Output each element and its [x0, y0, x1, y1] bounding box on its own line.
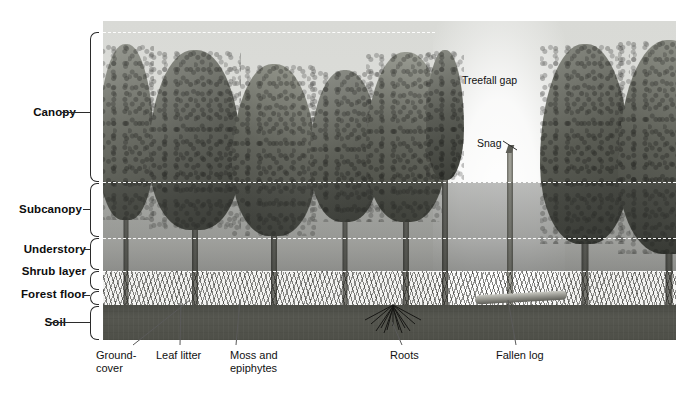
callout-line-1: Moss and: [230, 349, 278, 362]
layer-leader-understory: [84, 249, 90, 250]
callout-leaf-litter: Leaf litter: [156, 349, 201, 362]
shrub-layer-band: [103, 271, 676, 291]
layer-bracket-shrub: [90, 271, 99, 290]
layer-bracket-soil: [90, 306, 99, 340]
layer-label-shrub: Shrub layer: [10, 265, 86, 277]
dashed-rule-subcanopy-top: [103, 182, 676, 183]
layer-bracket-forest-floor: [90, 291, 99, 305]
callout-line-1: Roots: [390, 349, 419, 362]
snag-leader-line: [503, 139, 529, 155]
annotation-treefall-gap: Treefall gap: [462, 74, 517, 86]
layer-bracket-canopy: [90, 32, 99, 182]
forest-floor-band: [103, 291, 676, 305]
dashed-rule-shrub-top: [103, 271, 676, 272]
dashed-rule-understory-top: [103, 238, 676, 239]
layer-bracket-understory: [90, 238, 99, 270]
layer-bracket-subcanopy: [90, 183, 99, 237]
callout-line-2: cover: [96, 362, 136, 375]
layer-leader-soil: [48, 322, 90, 323]
layer-leader-forest-floor: [84, 295, 90, 296]
callout-ground-cover: Ground- cover: [96, 349, 136, 374]
dashed-rule-canopy-top: [103, 32, 435, 33]
layer-label-understory: Understory: [10, 243, 86, 255]
layer-leader-subcanopy: [83, 209, 90, 210]
callout-fallen-log: Fallen log: [496, 349, 544, 362]
layer-label-forest-floor: Forest floor: [10, 288, 86, 300]
layer-label-subcanopy: Subcanopy: [10, 203, 82, 215]
annotation-snag: Snag: [477, 137, 502, 149]
callout-roots: Roots: [390, 349, 419, 362]
callout-line-1: Ground-: [96, 349, 136, 362]
callout-line-1: Fallen log: [496, 349, 544, 362]
layer-leader-canopy: [62, 112, 90, 113]
understory-band: [103, 238, 676, 271]
roots-graphic: [361, 304, 425, 336]
callout-moss-and-epiphytes: Moss and epiphytes: [230, 349, 278, 374]
forest-illustration: Treefall gap Snag: [103, 21, 676, 340]
callout-line-1: Leaf litter: [156, 349, 201, 362]
callout-line-2: epiphytes: [230, 362, 278, 375]
subcanopy-band: [103, 182, 676, 238]
